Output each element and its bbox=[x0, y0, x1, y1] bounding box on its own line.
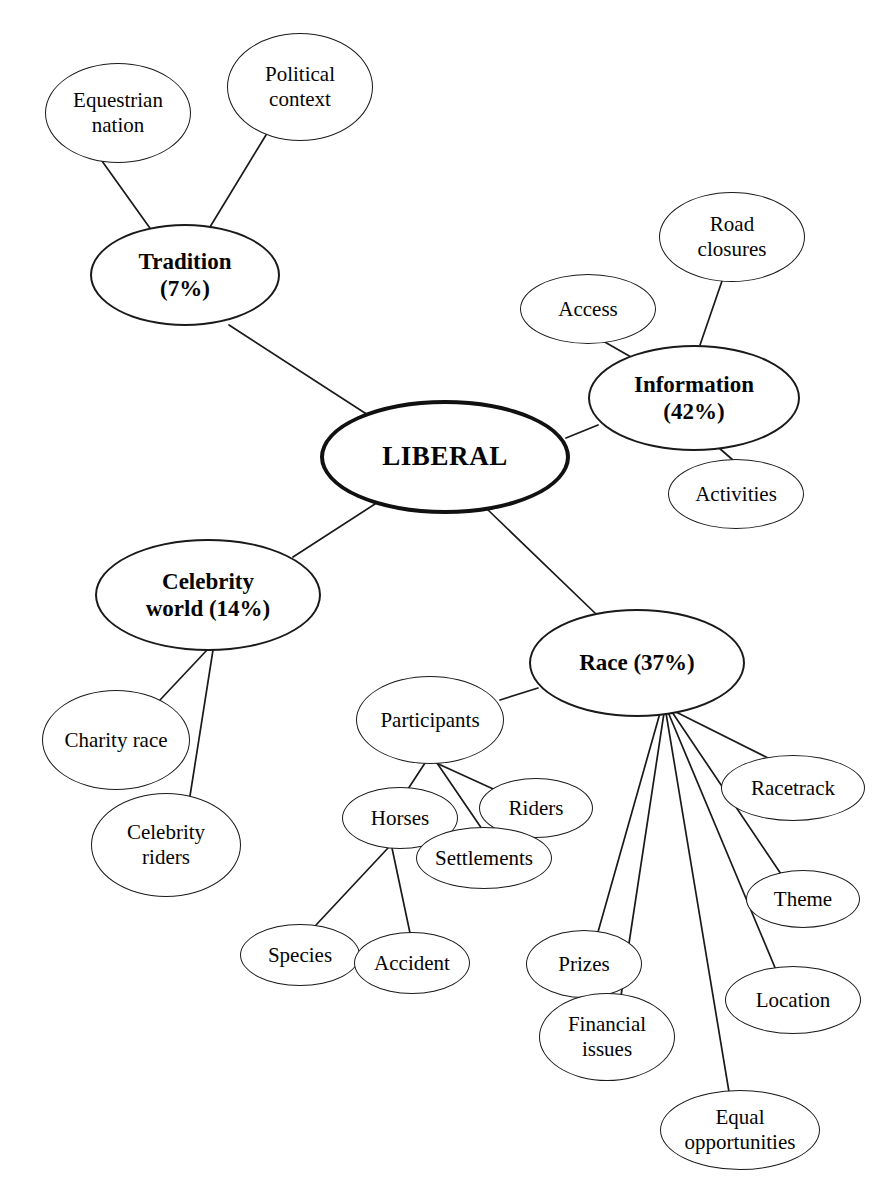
node-label-prizes: Prizes bbox=[531, 952, 637, 977]
node-label-activities: Activities bbox=[673, 482, 799, 507]
edge-celebrity-to-charityrace bbox=[160, 650, 207, 700]
edge-celebrity-to-celebrityriders bbox=[190, 650, 213, 796]
node-financial[interactable]: Financial issues bbox=[539, 993, 675, 1081]
node-label-political: Political context bbox=[232, 62, 368, 112]
node-racetrack[interactable]: Racetrack bbox=[721, 755, 865, 821]
edge-race-to-prizes bbox=[598, 713, 660, 932]
node-race[interactable]: Race (37%) bbox=[529, 609, 745, 717]
node-label-accident: Accident bbox=[359, 951, 465, 976]
edge-race-to-participants bbox=[500, 688, 538, 700]
node-information[interactable]: Information (42%) bbox=[588, 345, 800, 451]
edge-tradition-to-political bbox=[210, 135, 266, 227]
node-label-access: Access bbox=[525, 297, 651, 322]
node-celebrityriders[interactable]: Celebrity riders bbox=[91, 793, 241, 897]
edge-horses-to-accident bbox=[392, 848, 410, 933]
node-celebrity[interactable]: Celebrity world (14%) bbox=[95, 539, 321, 651]
node-charityrace[interactable]: Charity race bbox=[42, 690, 190, 790]
node-activities[interactable]: Activities bbox=[668, 459, 804, 529]
node-label-riders: Riders bbox=[484, 796, 588, 821]
node-label-celebrity: Celebrity world (14%) bbox=[101, 568, 315, 622]
node-label-participants: Participants bbox=[361, 708, 499, 733]
edge-liberal-to-tradition bbox=[229, 325, 368, 415]
node-species[interactable]: Species bbox=[240, 924, 360, 986]
node-tradition[interactable]: Tradition (7%) bbox=[90, 224, 280, 326]
edge-race-to-equal bbox=[666, 713, 729, 1092]
node-label-horses: Horses bbox=[347, 806, 453, 831]
node-political[interactable]: Political context bbox=[227, 33, 373, 141]
node-participants[interactable]: Participants bbox=[356, 676, 504, 764]
node-label-settlements: Settlements bbox=[421, 846, 547, 871]
node-label-location: Location bbox=[730, 988, 856, 1013]
node-label-tradition: Tradition (7%) bbox=[96, 248, 274, 302]
edge-horses-to-species bbox=[316, 848, 388, 925]
node-prizes[interactable]: Prizes bbox=[526, 930, 642, 998]
node-label-information: Information (42%) bbox=[594, 371, 794, 425]
node-label-racetrack: Racetrack bbox=[726, 776, 860, 801]
node-liberal[interactable]: LIBERAL bbox=[320, 400, 570, 514]
node-roadclosures[interactable]: Road closures bbox=[659, 192, 805, 282]
node-label-liberal: LIBERAL bbox=[328, 441, 562, 473]
node-settlements[interactable]: Settlements bbox=[416, 827, 552, 889]
node-location[interactable]: Location bbox=[725, 966, 861, 1034]
node-equestrian[interactable]: Equestrian nation bbox=[45, 63, 191, 163]
edge-liberal-to-information bbox=[566, 425, 598, 438]
node-label-species: Species bbox=[245, 943, 355, 968]
mind-map-diagram: LIBERALTradition (7%)Information (42%)Ce… bbox=[0, 0, 896, 1201]
edge-tradition-to-equestrian bbox=[102, 161, 152, 231]
edge-liberal-to-race bbox=[487, 509, 596, 614]
edge-information-to-access bbox=[603, 341, 631, 357]
edge-liberal-to-celebrity bbox=[293, 504, 375, 557]
node-accident[interactable]: Accident bbox=[354, 932, 470, 994]
node-theme[interactable]: Theme bbox=[746, 870, 860, 928]
node-access[interactable]: Access bbox=[520, 274, 656, 344]
node-equal[interactable]: Equal opportunities bbox=[660, 1090, 820, 1170]
node-label-financial: Financial issues bbox=[544, 1012, 670, 1062]
edge-race-to-racetrack bbox=[676, 712, 768, 758]
node-label-race: Race (37%) bbox=[535, 649, 739, 676]
node-label-celebrityriders: Celebrity riders bbox=[96, 820, 236, 870]
node-label-equestrian: Equestrian nation bbox=[50, 88, 186, 138]
edge-information-to-roadclosures bbox=[700, 281, 722, 345]
edge-participants-to-horses bbox=[408, 763, 425, 789]
node-label-roadclosures: Road closures bbox=[664, 212, 800, 262]
node-label-charityrace: Charity race bbox=[47, 728, 185, 753]
node-label-equal: Equal opportunities bbox=[665, 1105, 815, 1155]
node-label-theme: Theme bbox=[751, 887, 855, 912]
